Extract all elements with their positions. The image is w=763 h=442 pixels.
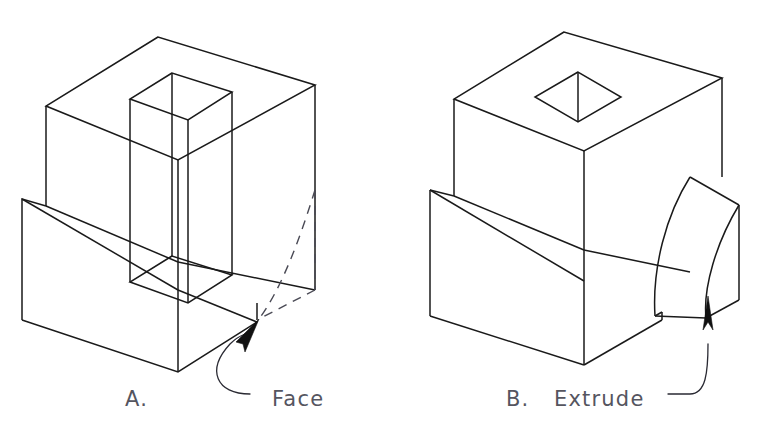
panel-a-ledge-top-edge [22, 199, 178, 290]
panel-b-ledge-top-edge [430, 190, 584, 281]
extrude-callout-group [668, 296, 713, 394]
panel-b-fillet-top-edge [690, 177, 739, 205]
panel-a-base-front-face [22, 320, 257, 372]
panel-b-fillet-front-arc [655, 177, 690, 316]
panel-b-top-face [454, 32, 722, 151]
panel-b-base-bottom-left [430, 316, 584, 365]
face-callout-group [217, 319, 259, 394]
panel-b-fillet-back-arc [706, 205, 739, 318]
panel-a-ledge-back-edge [46, 206, 178, 262]
face-label: Face [272, 387, 324, 411]
technical-drawing-canvas: A. Face [0, 0, 763, 442]
panel-b-base-bottom-right [584, 320, 662, 365]
panel-a-base-right-edge [178, 290, 257, 322]
face-arrowhead [236, 319, 259, 352]
panel-a-caption: A. [125, 387, 148, 411]
extrude-leader-line [668, 344, 708, 394]
panel-a-ledge-surface [22, 199, 46, 320]
panel-a-prism-top-face [130, 73, 232, 120]
panel-a-hidden-diagonal [259, 290, 315, 319]
panel-a-ledge-right-run [178, 262, 315, 290]
panel-a-figure [22, 37, 315, 372]
isometric-drawing-svg: A. Face [0, 0, 763, 442]
panel-b-figure [430, 32, 739, 365]
panel-b-caption: B. [506, 387, 529, 411]
panel-b-ledge-right-run [584, 250, 690, 272]
panel-a-top-face [46, 37, 315, 160]
extrude-arrowhead [703, 296, 713, 330]
panel-b-ledge-left-edge [430, 190, 454, 196]
panel-a-hidden-arc [259, 190, 315, 319]
extrude-label: Extrude [554, 387, 645, 411]
